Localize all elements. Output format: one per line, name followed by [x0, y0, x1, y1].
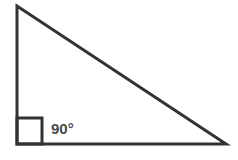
right-triangle-diagram [0, 0, 238, 160]
triangle-shape [17, 6, 226, 144]
right-angle-marker [17, 118, 42, 144]
angle-label: 90° [51, 120, 74, 138]
